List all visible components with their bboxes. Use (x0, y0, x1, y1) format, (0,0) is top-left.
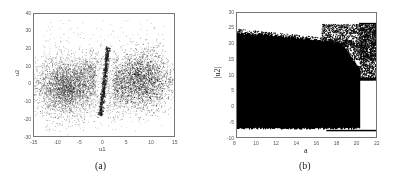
x-tick-label: 8 (233, 141, 236, 146)
y-tick-label: 25 (228, 25, 234, 30)
x-tick-label: 12 (273, 141, 279, 146)
x-tick-label: 0 (101, 140, 104, 145)
x-tick-label: 22 (374, 141, 380, 146)
y-tick-label: -20 (24, 117, 31, 122)
y-tick-label: -10 (24, 99, 31, 104)
y-tick-label: 10 (25, 64, 31, 69)
y-tick-label: -5 (230, 120, 234, 125)
x-tick-label: -15 (30, 140, 37, 145)
y-tick-label: 20 (228, 41, 234, 46)
scatter-canvas-b (237, 13, 376, 137)
plot-area-a (33, 13, 175, 137)
y-tick-label: 20 (25, 46, 31, 51)
y-tick-label: 15 (228, 57, 234, 62)
panel-b: 302520151050-5-10 810121416182022 |u2| a… (200, 0, 397, 179)
scatter-canvas-a (34, 14, 174, 136)
x-tick-label: -10 (54, 140, 61, 145)
x-tick-label: 10 (253, 141, 259, 146)
x-tick-label: 14 (293, 141, 299, 146)
caption-b: (b) (299, 160, 311, 171)
panel-a: 403020100-10-20-30 -15-10-5051015 u2 u1 … (0, 0, 200, 179)
y-axis-label-a: u2 (14, 70, 20, 77)
caption-a: (a) (95, 160, 106, 171)
y-tick-label: 30 (228, 10, 234, 15)
y-tick-label: 0 (231, 104, 234, 109)
x-tick-label: 20 (354, 141, 360, 146)
x-tick-label: 18 (334, 141, 340, 146)
x-axis-label-a: u1 (99, 146, 106, 152)
y-tick-label: 30 (25, 28, 31, 33)
y-axis-label-b: |u2| (213, 67, 222, 78)
x-tick-label: 15 (172, 140, 178, 145)
y-tick-label: 10 (228, 73, 234, 78)
x-tick-label: 16 (314, 141, 320, 146)
y-tick-label: 40 (25, 11, 31, 16)
x-tick-label: 5 (125, 140, 128, 145)
x-tick-label: -5 (77, 140, 81, 145)
x-axis-label-b: a (304, 146, 308, 155)
x-tick-label: 10 (148, 140, 154, 145)
y-tick-label: 0 (28, 81, 31, 86)
plot-area-b (236, 12, 377, 138)
y-tick-label: 5 (231, 88, 234, 93)
